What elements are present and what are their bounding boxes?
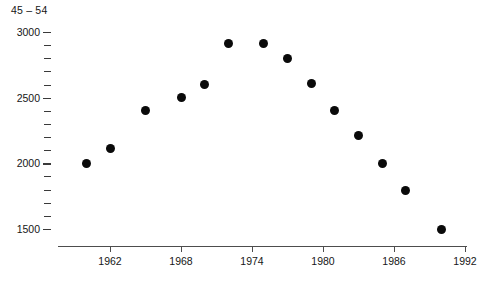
y-axis-label-text: 2000	[2, 157, 40, 169]
y-axis-tick-major	[43, 98, 51, 99]
x-axis-label: 1962	[98, 255, 121, 267]
x-axis-tick	[110, 246, 111, 252]
y-axis-label: 1500	[0, 223, 40, 235]
y-axis-tick-minor	[44, 176, 51, 177]
data-point	[82, 159, 91, 168]
x-axis-label: 1968	[169, 255, 192, 267]
y-axis-tick-minor	[44, 71, 51, 72]
y-axis-tick-minor	[44, 58, 51, 59]
data-point	[307, 79, 316, 88]
x-axis-line	[58, 246, 467, 247]
y-axis-label-text: 3000	[2, 26, 40, 38]
y-axis-tick-minor	[44, 190, 51, 191]
x-axis-tick	[465, 246, 466, 252]
data-point	[259, 39, 268, 48]
y-axis-label-text: 1500	[2, 223, 40, 235]
data-point	[141, 106, 150, 115]
data-point	[354, 131, 363, 140]
y-axis-tick-minor	[44, 137, 51, 138]
y-axis-label: 3000	[0, 26, 40, 38]
y-axis-tick-major	[43, 32, 51, 33]
y-axis-tick-major	[43, 163, 51, 164]
y-axis-tick-minor	[44, 150, 51, 151]
y-axis-tick-minor	[44, 124, 51, 125]
data-point	[106, 144, 115, 153]
plot-area: 1500200025003000 19621968197419801986199…	[0, 0, 491, 287]
data-point	[283, 54, 292, 63]
x-axis-tick	[181, 246, 182, 252]
y-axis-label: 2000	[0, 157, 40, 169]
x-axis-label: 1992	[453, 255, 476, 267]
data-point	[437, 225, 446, 234]
y-axis-tick-minor	[44, 203, 51, 204]
data-point	[330, 106, 339, 115]
y-axis-label: 2500	[0, 92, 40, 104]
x-axis-label: 1986	[382, 255, 405, 267]
chart-container: 45 – 54 1500200025003000 196219681974198…	[0, 0, 491, 287]
y-axis-tick-minor	[44, 216, 51, 217]
x-axis-tick	[323, 246, 324, 252]
data-point	[378, 159, 387, 168]
x-axis-label: 1980	[311, 255, 334, 267]
data-point	[200, 80, 209, 89]
y-axis-tick-minor	[44, 85, 51, 86]
y-axis-tick-major	[43, 229, 51, 230]
y-axis-tick-minor	[44, 45, 51, 46]
y-axis-label-text: 2500	[2, 92, 40, 104]
x-axis-tick	[252, 246, 253, 252]
y-axis-tick-minor	[44, 111, 51, 112]
data-point	[401, 186, 410, 195]
data-point	[224, 39, 233, 48]
data-point	[177, 93, 186, 102]
x-axis-tick	[394, 246, 395, 252]
x-axis-label: 1974	[240, 255, 263, 267]
